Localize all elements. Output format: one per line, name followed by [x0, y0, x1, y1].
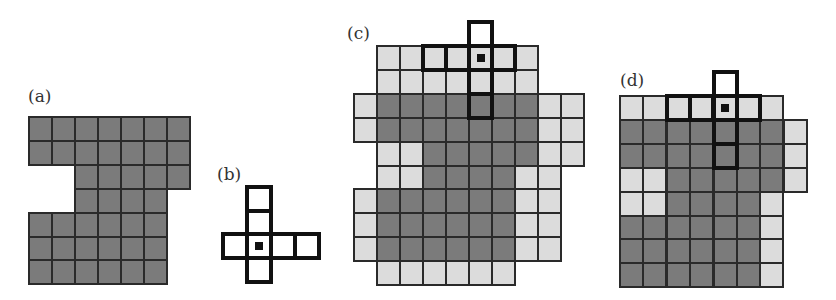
foreground-pixel	[619, 119, 644, 145]
foreground-pixel	[514, 117, 539, 143]
foreground-pixel	[120, 140, 145, 166]
foreground-pixel	[642, 119, 667, 145]
structuring-element-cell	[467, 92, 494, 120]
added-pixel	[376, 45, 401, 71]
origin-marker-icon	[477, 54, 485, 62]
added-pixel	[783, 143, 808, 169]
foreground-pixel	[97, 116, 122, 142]
added-pixel	[642, 95, 667, 121]
foreground-pixel	[666, 262, 691, 288]
added-pixel	[514, 212, 539, 238]
foreground-pixel	[143, 140, 168, 166]
panel-label-b: (b)	[217, 166, 241, 183]
foreground-pixel	[468, 141, 493, 167]
added-pixel	[353, 93, 378, 119]
foreground-pixel	[120, 212, 145, 238]
foreground-pixel	[689, 167, 714, 193]
panel-label-a: (a)	[28, 88, 51, 105]
foreground-pixel	[399, 212, 424, 238]
added-pixel	[560, 141, 585, 167]
foreground-pixel	[143, 116, 168, 142]
added-pixel	[376, 141, 401, 167]
added-pixel	[468, 260, 493, 286]
added-pixel	[491, 69, 516, 95]
origin-marker-icon	[255, 242, 263, 250]
added-pixel	[619, 95, 644, 121]
foreground-pixel	[666, 167, 691, 193]
added-pixel	[353, 212, 378, 238]
foreground-pixel	[468, 212, 493, 238]
foreground-pixel	[736, 191, 761, 217]
foreground-pixel	[445, 236, 470, 262]
added-pixel	[353, 188, 378, 214]
foreground-pixel	[491, 141, 516, 167]
foreground-pixel	[468, 236, 493, 262]
added-pixel	[537, 236, 562, 262]
foreground-pixel	[689, 143, 714, 169]
foreground-pixel	[399, 93, 424, 119]
foreground-pixel	[514, 141, 539, 167]
foreground-pixel	[422, 141, 447, 167]
foreground-pixel	[143, 188, 168, 214]
foreground-pixel	[422, 212, 447, 238]
foreground-pixel	[74, 164, 99, 190]
added-pixel	[514, 188, 539, 214]
foreground-pixel	[666, 191, 691, 217]
added-pixel	[759, 191, 784, 217]
added-pixel	[560, 117, 585, 143]
foreground-pixel	[166, 116, 191, 142]
foreground-pixel	[666, 119, 691, 145]
added-pixel	[537, 93, 562, 119]
foreground-pixel	[422, 188, 447, 214]
foreground-pixel	[97, 164, 122, 190]
foreground-pixel	[422, 236, 447, 262]
foreground-pixel	[376, 117, 401, 143]
foreground-pixel	[619, 143, 644, 169]
added-pixel	[399, 69, 424, 95]
added-pixel	[642, 191, 667, 217]
added-pixel	[759, 262, 784, 288]
foreground-pixel	[422, 117, 447, 143]
foreground-pixel	[713, 167, 738, 193]
foreground-pixel	[120, 116, 145, 142]
foreground-pixel	[689, 238, 714, 264]
foreground-pixel	[120, 259, 145, 285]
added-pixel	[514, 45, 539, 71]
foreground-pixel	[713, 238, 738, 264]
added-pixel	[642, 167, 667, 193]
foreground-pixel	[376, 212, 401, 238]
foreground-pixel	[28, 212, 53, 238]
foreground-pixel	[445, 212, 470, 238]
foreground-pixel	[736, 119, 761, 145]
foreground-pixel	[759, 119, 784, 145]
foreground-pixel	[97, 140, 122, 166]
added-pixel	[445, 260, 470, 286]
foreground-pixel	[143, 212, 168, 238]
foreground-pixel	[759, 143, 784, 169]
foreground-pixel	[619, 262, 644, 288]
added-pixel	[759, 95, 784, 121]
foreground-pixel	[445, 117, 470, 143]
added-pixel	[399, 141, 424, 167]
foreground-pixel	[619, 238, 644, 264]
foreground-pixel	[491, 188, 516, 214]
structuring-element-cell	[712, 142, 739, 170]
foreground-pixel	[376, 93, 401, 119]
foreground-pixel	[28, 259, 53, 285]
origin-marker-icon	[721, 104, 729, 112]
foreground-pixel	[51, 140, 76, 166]
foreground-pixel	[51, 212, 76, 238]
foreground-pixel	[689, 191, 714, 217]
added-pixel	[514, 69, 539, 95]
foreground-pixel	[642, 262, 667, 288]
foreground-pixel	[468, 188, 493, 214]
added-pixel	[537, 117, 562, 143]
foreground-pixel	[120, 164, 145, 190]
foreground-pixel	[713, 262, 738, 288]
added-pixel	[491, 260, 516, 286]
foreground-pixel	[166, 164, 191, 190]
foreground-pixel	[666, 238, 691, 264]
foreground-pixel	[736, 238, 761, 264]
foreground-pixel	[51, 259, 76, 285]
added-pixel	[537, 141, 562, 167]
